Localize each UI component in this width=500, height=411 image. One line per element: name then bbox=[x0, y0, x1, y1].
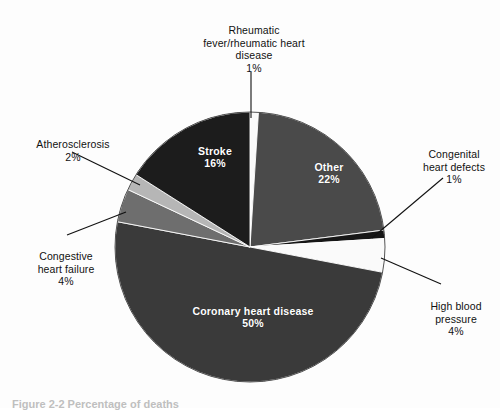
callout-pct-congestive-heart-failure: 4% bbox=[10, 275, 122, 287]
slice-text-other: Other bbox=[314, 161, 343, 173]
callout-pct-high-blood-pressure: 4% bbox=[416, 325, 496, 337]
callout-label-congenital-heart-defects: Congenital heart defects 1% bbox=[412, 136, 496, 198]
slice-label-coronary-heart-disease: Coronary heart disease 50% bbox=[155, 292, 351, 330]
callout-text-rheumatic-fever: Rheumatic fever/rheumatic heart disease bbox=[203, 24, 304, 61]
callout-label-rheumatic-fever: Rheumatic fever/rheumatic heart disease … bbox=[176, 12, 332, 86]
callout-text-congenital-heart-defects: Congenital heart defects bbox=[423, 148, 485, 172]
callout-label-high-blood-pressure: High blood pressure 4% bbox=[416, 288, 496, 350]
slice-pct-other: 22% bbox=[318, 173, 340, 185]
callout-text-congestive-heart-failure: Congestive heart failure bbox=[38, 250, 95, 274]
slice-label-other: Other 22% bbox=[281, 148, 377, 186]
slice-text-coronary-heart-disease: Coronary heart disease bbox=[192, 305, 313, 317]
slice-label-stroke: Stroke 16% bbox=[160, 132, 270, 170]
callout-text-high-blood-pressure: High blood pressure bbox=[430, 300, 481, 324]
figure-caption: Figure 2-2 Percentage of deaths bbox=[12, 398, 312, 411]
slice-pct-coronary-heart-disease: 50% bbox=[242, 317, 264, 329]
slice-pct-stroke: 16% bbox=[204, 157, 226, 169]
callout-label-congestive-heart-failure: Congestive heart failure 4% bbox=[10, 238, 122, 300]
callout-pct-atherosclerosis: 2% bbox=[14, 151, 132, 163]
callout-pct-rheumatic-fever: 1% bbox=[176, 62, 332, 74]
callout-pct-congenital-heart-defects: 1% bbox=[412, 173, 496, 185]
callout-text-atherosclerosis: Atherosclerosis bbox=[36, 138, 109, 150]
leader-line-highbp bbox=[381, 258, 441, 284]
slice-text-stroke: Stroke bbox=[198, 145, 232, 157]
callout-label-atherosclerosis: Atherosclerosis 2% bbox=[14, 126, 132, 176]
